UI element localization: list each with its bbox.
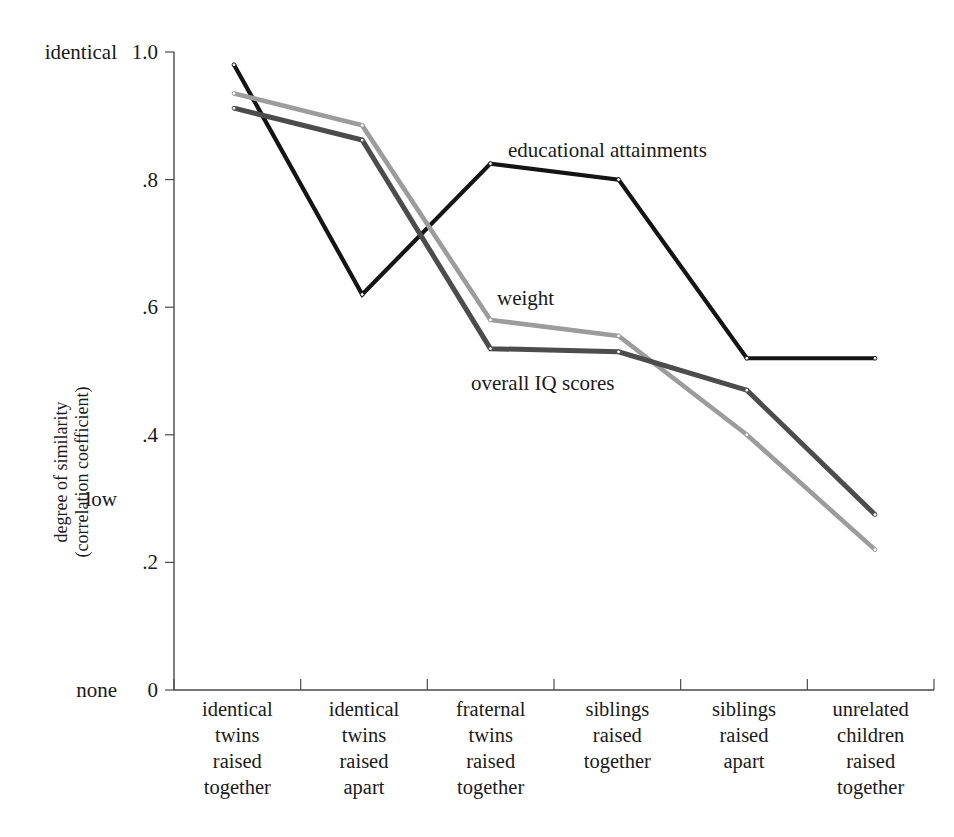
series-point — [873, 548, 877, 552]
series-point — [360, 123, 364, 127]
x-category-label: siblingsraisedtogether — [584, 698, 651, 773]
x-category-label-line: raised — [846, 750, 895, 772]
series-point — [745, 388, 749, 392]
x-category-label-line: together — [204, 776, 271, 799]
series-point — [745, 433, 749, 437]
series-point — [617, 334, 621, 338]
y-anchor-label: none — [76, 678, 117, 702]
y-anchor-label: identical — [45, 40, 117, 64]
x-category-label-line: twins — [468, 724, 512, 746]
series-point — [489, 162, 493, 166]
x-category-label-line: children — [837, 724, 904, 746]
series-point — [617, 178, 621, 182]
y-axis-title-line2-group: (correlation coefficient) — [72, 386, 93, 557]
x-category-label-line: together — [837, 776, 904, 799]
x-category-label-line: raised — [340, 750, 389, 772]
series-point — [232, 92, 236, 96]
y-tick-label: 1.0 — [132, 40, 158, 64]
series-annotation-label: weight — [497, 286, 554, 310]
series-overall-iq-scores — [232, 106, 877, 516]
series-annotation-label: overall IQ scores — [471, 371, 614, 395]
x-category-label: siblingsraisedapart — [712, 698, 776, 773]
x-category-label-line: identical — [329, 698, 400, 720]
x-category-label-line: together — [457, 776, 524, 799]
x-category-label: identicaltwinsraisedtogether — [202, 698, 273, 799]
x-category-label-line: twins — [215, 724, 259, 746]
y-axis-ticks: 0.2.4.6.81.0 — [132, 40, 174, 702]
x-category-label-line: raised — [720, 724, 769, 746]
x-category-label-line: together — [584, 750, 651, 773]
x-category-label-line: raised — [466, 750, 515, 772]
x-category-label-line: twins — [342, 724, 386, 746]
series-point — [617, 350, 621, 354]
x-category-label-line: unrelated — [833, 698, 909, 720]
series-point — [360, 138, 364, 142]
series-point — [360, 293, 364, 297]
series-point — [232, 63, 236, 67]
y-tick-label: .6 — [142, 295, 158, 319]
series-educational-attainments — [232, 63, 877, 360]
chart-container: 0.2.4.6.81.0 identicallownone degree of … — [0, 0, 954, 837]
series-point — [232, 106, 236, 110]
x-category-label-line: siblings — [585, 698, 649, 721]
y-axis-anchor-labels: identicallownone — [45, 40, 118, 702]
y-tick-label: .4 — [142, 423, 158, 447]
series-point — [873, 356, 877, 360]
y-axis-title-line1-group: degree of similarity — [51, 402, 71, 543]
x-category-label: fraternaltwinsraisedtogether — [456, 698, 526, 799]
x-category-label-line: identical — [202, 698, 273, 720]
x-category-label-line: fraternal — [456, 698, 526, 720]
data-series — [232, 63, 877, 552]
series-point — [489, 318, 493, 322]
y-tick-label: 0 — [148, 678, 159, 702]
series-point — [489, 347, 493, 351]
y-axis-title-line2: (correlation coefficient) — [72, 386, 93, 557]
x-category-label-line: raised — [593, 724, 642, 746]
x-axis-ticks — [174, 679, 934, 690]
series-line — [234, 65, 875, 358]
similarity-line-chart: 0.2.4.6.81.0 identicallownone degree of … — [0, 0, 954, 837]
series-point — [873, 513, 877, 517]
y-axis-title: degree of similarity(correlation coeffic… — [51, 386, 93, 557]
y-tick-label: .2 — [142, 550, 158, 574]
x-category-label-line: siblings — [712, 698, 776, 721]
series-annotation-label: educational attainments — [508, 138, 707, 162]
series-point — [745, 356, 749, 360]
y-axis-title-line1: degree of similarity — [51, 402, 71, 543]
series-line — [234, 108, 875, 514]
x-category-label-line: raised — [213, 750, 262, 772]
y-tick-label: .8 — [142, 168, 158, 192]
x-category-label: identicaltwinsraisedapart — [329, 698, 400, 799]
x-category-label-line: apart — [724, 750, 765, 773]
x-category-label: unrelatedchildrenraisedtogether — [833, 698, 909, 799]
x-category-label-line: apart — [344, 776, 385, 799]
x-axis-category-labels: identicaltwinsraisedtogetheridenticaltwi… — [202, 698, 909, 799]
